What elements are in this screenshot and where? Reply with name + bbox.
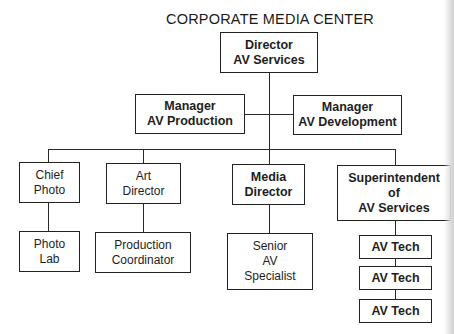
node-photo-lab: Photo Lab: [19, 231, 80, 272]
node-label: AV Production: [147, 114, 233, 129]
page-edge-shadow: [444, 0, 454, 334]
node-label: Director: [122, 184, 164, 199]
media-director-drop-line: [269, 149, 270, 164]
node-av-tech: AV Tech: [359, 266, 432, 290]
node-chief-photo: Chief Photo: [19, 162, 80, 203]
node-label: AV Services: [358, 201, 429, 216]
node-av-tech: AV Tech: [359, 299, 432, 323]
node-label: Production: [114, 238, 171, 253]
senior-specialist-link-line: [269, 204, 270, 233]
node-label: Art: [136, 169, 151, 184]
node-manager-av-production: Manager AV Production: [135, 94, 245, 134]
node-label: Senior: [253, 239, 288, 254]
node-label: Photo: [34, 237, 65, 252]
production-coordinator-link-line: [143, 204, 144, 232]
art-director-drop-line: [143, 149, 144, 163]
node-label: AV Development: [298, 115, 396, 130]
node-art-director: Art Director: [106, 163, 181, 204]
node-av-tech: AV Tech: [359, 235, 432, 259]
node-superintendent-av-services: Superintendent of AV Services: [337, 165, 451, 221]
node-senior-av-specialist: Senior AV Specialist: [227, 233, 313, 290]
node-production-coordinator: Production Coordinator: [95, 232, 191, 273]
node-label: Lab: [39, 252, 59, 267]
level2-bus-line: [48, 149, 396, 150]
node-label: of: [388, 186, 400, 201]
photo-lab-link-line: [48, 202, 49, 231]
node-director-av-services: Director AV Services: [220, 32, 318, 73]
trunk-line: [269, 72, 270, 150]
node-label: Director: [245, 38, 293, 53]
node-label: AV: [262, 254, 277, 269]
node-media-director: Media Director: [232, 164, 305, 205]
node-label: Director: [245, 185, 293, 200]
node-label: Media: [251, 170, 286, 185]
node-label: AV Services: [233, 53, 304, 68]
node-label: Coordinator: [112, 253, 175, 268]
chief-photo-drop-line: [48, 149, 49, 162]
node-label: Manager: [164, 99, 215, 114]
manager-connector-line: [245, 114, 293, 115]
node-label: Photo: [34, 183, 65, 198]
node-label: AV Tech: [371, 304, 419, 319]
node-label: Manager: [322, 100, 373, 115]
node-manager-av-development: Manager AV Development: [293, 95, 402, 135]
node-label: Chief: [35, 168, 63, 183]
chart-title: CORPORATE MEDIA CENTER: [160, 11, 380, 27]
superintendent-drop-line: [395, 149, 396, 165]
node-label: AV Tech: [371, 271, 419, 286]
node-label: Superintendent: [348, 171, 440, 186]
node-label: AV Tech: [371, 240, 419, 255]
node-label: Specialist: [244, 269, 295, 284]
